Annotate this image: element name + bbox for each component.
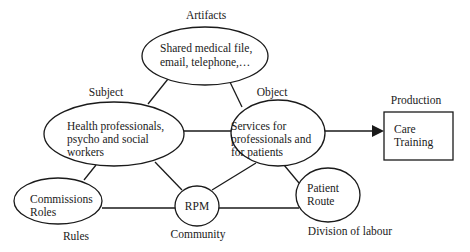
label-division: Division of labour <box>308 225 392 237</box>
node-division: Patient Route Division of labour <box>296 168 392 237</box>
edge-object-division <box>284 165 299 183</box>
division-line-1: Patient <box>307 182 340 194</box>
edge-artifacts-subject <box>148 79 168 104</box>
edge-artifacts-object <box>229 80 242 107</box>
subject-line-1: Health professionals, <box>67 120 164 133</box>
activity-system-diagram: Artifacts Shared medical file, email, te… <box>0 0 470 252</box>
production-line-1: Care <box>394 123 416 135</box>
node-rules: Commissions Roles Rules <box>14 178 102 242</box>
object-line-3: for patients <box>231 146 284 159</box>
edge-subject-rules <box>84 165 96 180</box>
edge-object-community <box>212 163 256 190</box>
division-line-2: Route <box>307 195 334 207</box>
label-artifacts: Artifacts <box>186 9 227 21</box>
label-subject: Subject <box>89 86 124 99</box>
node-community: RPM Community <box>171 186 226 241</box>
node-artifacts: Artifacts Shared medical file, email, te… <box>142 9 268 85</box>
subject-line-3: workers <box>67 146 105 158</box>
rules-line-1: Commissions <box>30 193 93 205</box>
object-line-2: professionals and <box>231 133 311 146</box>
node-subject: Subject Health professionals, psycho and… <box>44 86 184 166</box>
edge-subject-community <box>155 162 182 190</box>
community-line-1: RPM <box>185 200 209 212</box>
label-object: Object <box>257 86 288 99</box>
node-production: Production Care Training <box>384 94 453 160</box>
label-community: Community <box>171 228 226 241</box>
subject-line-2: psycho and social <box>67 133 149 146</box>
arrowhead-icon <box>372 125 384 137</box>
label-rules: Rules <box>63 230 90 242</box>
rules-line-2: Roles <box>30 206 57 218</box>
production-line-2: Training <box>394 136 433 149</box>
object-line-1: Services for <box>231 120 286 132</box>
label-production: Production <box>391 94 442 106</box>
artifacts-line-1: Shared medical file, <box>160 42 252 55</box>
node-object: Object Services for professionals and fo… <box>231 86 325 166</box>
artifacts-line-2: email, telephone,… <box>160 56 250 69</box>
